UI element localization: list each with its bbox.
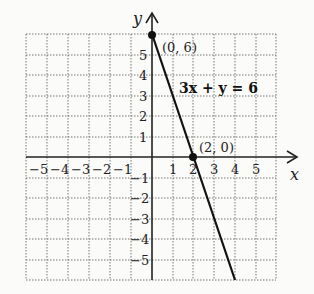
x-tick-label: −4 <box>50 162 69 177</box>
y-tick-label: 2 <box>139 109 147 124</box>
point-2-0 <box>189 153 197 161</box>
equation-label: 3x + y = 6 <box>179 80 258 96</box>
y-tick-label: −1 <box>130 171 149 186</box>
x-tick-label: −3 <box>71 162 90 177</box>
y-tick-labels: 5 4 3 2 1 −1 −2 −3 −4 −5 <box>130 48 149 268</box>
y-tick-label: 4 <box>139 68 147 83</box>
point-0-6 <box>148 31 156 39</box>
y-tick-label: 1 <box>139 130 147 145</box>
point-label-2-0: (2, 0) <box>199 140 234 155</box>
point-label-0-6: (0, 6) <box>162 40 197 55</box>
x-axis-label: x <box>290 165 299 184</box>
y-tick-label: −5 <box>130 253 149 268</box>
y-tick-label: 3 <box>139 89 147 104</box>
x-tick-label: 1 <box>169 162 177 177</box>
coordinate-plane: x y −5 −4 −3 −2 −1 1 2 3 4 5 5 4 3 2 1 −… <box>0 0 314 294</box>
x-tick-label: −5 <box>29 162 48 177</box>
y-tick-label: −4 <box>130 232 149 247</box>
x-tick-label: −2 <box>92 162 111 177</box>
y-tick-label: 5 <box>139 48 147 63</box>
x-tick-label: 3 <box>210 162 218 177</box>
y-tick-label: −2 <box>130 191 149 206</box>
y-tick-label: −3 <box>130 212 149 227</box>
x-tick-label: 5 <box>252 162 260 177</box>
x-tick-label: 4 <box>231 162 239 177</box>
y-axis-label: y <box>132 9 143 28</box>
